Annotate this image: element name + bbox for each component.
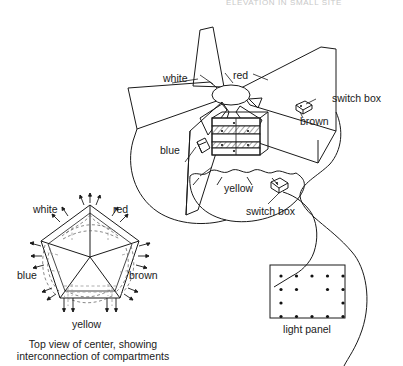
light-panel-dot [310,315,313,318]
label-switch-box-right: switch box [332,92,382,104]
light-panel-dot [279,315,282,318]
light-panel-dot [326,274,329,277]
pentagon-arrows-top [80,193,101,205]
label-light-panel: light panel [283,323,331,335]
terminal-block [212,112,268,155]
light-panel-dot [279,301,282,304]
light-panel-dot [341,288,344,291]
blue-connector [197,138,210,153]
label-brown-pentagon: brown [129,269,158,281]
pentagon-caption-line2: interconnection of compartments [17,350,169,362]
label-switch-box-bottom: switch box [246,205,296,217]
label-red-pentagon: red [113,203,128,215]
light-panel-dot [341,301,344,304]
label-brown-perspective: brown [300,115,329,127]
switch-box-right [296,101,312,114]
label-yellow-perspective: yellow [224,182,254,194]
light-panel-dot [341,274,344,277]
light-panel-dot [295,288,298,291]
label-blue-pentagon: blue [17,269,37,281]
light-panel-dot [310,274,313,277]
light-panel-dot [295,315,298,318]
pentagon-arrows-right [136,243,150,269]
light-panel-dot [326,315,329,318]
diagram-canvas: white red blue brown yellow switch box s… [0,0,403,366]
label-white-perspective: white [162,72,188,84]
pentagon-arrows-left [30,242,44,269]
light-panel-dot [341,315,344,318]
light-panel-dot [279,274,282,277]
pentagon-caption-line1: Top view of center, showing [29,338,158,350]
center-hub [212,85,250,105]
pentagon-arrows-bottom [63,298,118,312]
pentagon-arrows-lower-left [42,288,56,300]
label-red-perspective: red [233,69,248,81]
light-panel-dot [295,274,298,277]
light-panel [270,265,345,318]
light-panel-dot [326,288,329,291]
light-panel-dot [279,288,282,291]
label-white-pentagon: white [32,203,58,215]
label-yellow-pentagon: yellow [72,318,102,330]
light-panel-dots [279,274,344,318]
pentagon-arrows-lower-right [124,288,138,300]
label-blue-perspective: blue [160,144,180,156]
